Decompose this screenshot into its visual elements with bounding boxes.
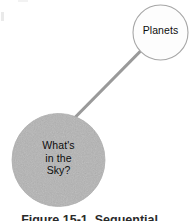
figure-caption: Figure 15-1. Sequential ... <box>0 213 193 221</box>
node-planets-shape <box>133 5 188 60</box>
concept-map-canvas <box>0 0 193 221</box>
scan-artifact-mark <box>1 12 4 21</box>
node-whats-in-the-sky[interactable] <box>12 114 105 207</box>
connector-sky-to-planets <box>72 45 147 121</box>
node-planets[interactable] <box>133 5 188 60</box>
scan-artifact-mark <box>18 0 28 2</box>
node-whats-in-the-sky-shape <box>12 114 105 207</box>
figure-container: Planets What's in the Sky? Figure 15-1. … <box>0 0 193 221</box>
